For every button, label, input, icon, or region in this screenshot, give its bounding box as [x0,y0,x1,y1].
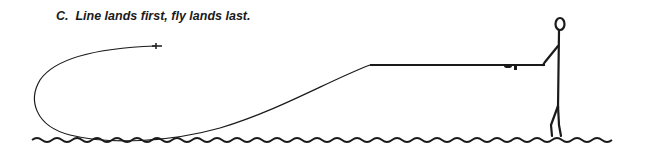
fly-line [35,46,370,141]
head [556,18,565,30]
fly-icon [152,43,162,49]
angler-figure [543,18,565,136]
illustration-canvas: C. Line lands first, fly lands last. [0,0,655,152]
fly-casting-illustration [0,0,655,152]
